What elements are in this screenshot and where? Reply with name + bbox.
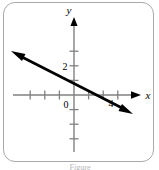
line-arrowhead-right: [119, 104, 134, 114]
coordinate-plane: y x 0 2 4: [0, 0, 159, 170]
y-tick-label-2: 2: [63, 61, 68, 72]
figure-caption-partial: Figure: [56, 163, 104, 170]
x-axis-label: x: [145, 89, 151, 101]
graph-figure: y x 0 2 4 Figure: [0, 0, 159, 170]
x-tick-label-4: 4: [109, 98, 114, 109]
y-axis-arrowhead: [70, 17, 77, 26]
y-axis-label: y: [66, 4, 72, 16]
x-axis-arrowhead: [131, 91, 141, 98]
origin-label: 0: [64, 99, 69, 110]
line-arrowhead-left: [11, 51, 26, 61]
